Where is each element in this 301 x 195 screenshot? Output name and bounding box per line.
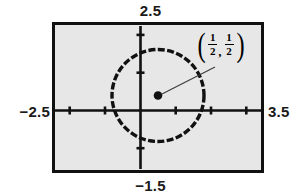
open-paren: ( — [198, 31, 206, 59]
y-min-label: −1.5 — [0, 177, 301, 194]
graph-figure: 2.5 −2.5 3.5 −1.5 ( — [0, 0, 301, 195]
denominator: 2 — [210, 46, 216, 58]
numerator: 1 — [210, 32, 216, 44]
fraction-one-half-x: 1 2 — [207, 32, 218, 57]
point-coordinate-label: ( 1 2 , 1 2 ) — [196, 31, 246, 59]
denominator: 2 — [226, 46, 232, 58]
close-paren: ) — [236, 31, 244, 59]
annotation-leader-line — [162, 67, 215, 94]
x-max-label: 3.5 — [268, 103, 289, 120]
fraction-one-half-y: 1 2 — [224, 32, 235, 57]
y-max-label: 2.5 — [0, 2, 301, 19]
numerator: 1 — [226, 32, 232, 44]
x-min-label: −2.5 — [2, 103, 50, 120]
center-point-marker — [154, 91, 163, 100]
